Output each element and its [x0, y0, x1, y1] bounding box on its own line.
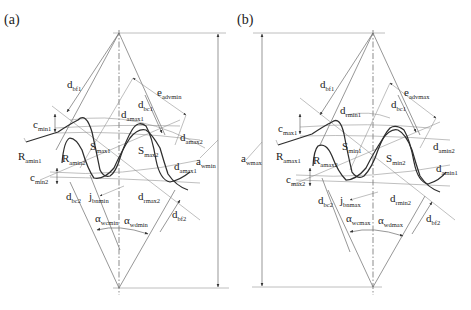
base-tangent-line	[350, 83, 390, 170]
label-subscript: min2	[35, 178, 48, 185]
label-subscript: wdmax	[384, 221, 404, 228]
label-subscript: min1	[38, 125, 51, 132]
dimension-label: Smax1	[90, 140, 111, 154]
label-subscript: bnmax	[343, 201, 361, 208]
dimension-label: dbf1	[67, 78, 81, 92]
right-lower-ray	[373, 196, 425, 287]
label-subscript: bc1	[397, 105, 406, 112]
dimension-label: drmin2	[390, 192, 411, 206]
label-subscript: max1	[283, 129, 297, 136]
label-subscript: wmax	[246, 159, 263, 166]
label-subscript: max2	[291, 180, 305, 187]
dimension-label: αwdmax	[378, 214, 404, 228]
panel-a-label: (a)	[4, 12, 20, 28]
dimension-label: Smin2	[386, 152, 406, 166]
label-subscript: amin2	[439, 147, 455, 154]
r-amax1-tick	[276, 140, 278, 145]
dimension-label: eadvmin	[157, 86, 182, 100]
panel-a: (a)	[4, 12, 229, 295]
label-subscript: amax2	[186, 138, 203, 145]
label-subscript: bf1	[326, 85, 335, 92]
dimension-label: damin2	[433, 140, 455, 154]
addendum-circle-1	[300, 125, 430, 128]
dimension-label: cmax1	[278, 122, 297, 136]
dimension-label: Ramax1	[276, 150, 301, 164]
r-amin1-tick	[24, 138, 26, 142]
dimension-label: Smin1	[342, 140, 362, 154]
label-subscript: max1	[96, 147, 110, 154]
dimension-label: αwcmin	[95, 212, 119, 226]
dimension-label: αwdmin	[124, 214, 149, 228]
panel-b-label: (b)	[237, 12, 254, 28]
dimension-label: dbf2	[172, 208, 186, 222]
dimension-label: dbc1	[138, 98, 153, 112]
dimension-label: cmax2	[286, 173, 305, 187]
right-lower-ray	[119, 190, 175, 288]
a-wmax-leader	[246, 142, 262, 160]
label-subscript: advmax	[409, 93, 430, 100]
label-subscript: wmin	[201, 162, 217, 169]
dimension-label: awmin	[196, 155, 216, 169]
panel-b-labels: dbf1 eadvmax dbc1 drmin1 cmax1 damin2 aw…	[241, 78, 458, 228]
dimension-label: Smax2	[138, 144, 159, 158]
label-subscript: rmin2	[396, 199, 412, 206]
gear-mesh-diagram: (a)	[0, 0, 471, 310]
dimension-label: dbf1	[320, 78, 334, 92]
dimension-label: drmin1	[340, 104, 361, 118]
panel-b: (b) dbf1 eadvmax db	[237, 12, 458, 295]
label-subscript: amax1	[180, 167, 197, 174]
dimension-label: drmax2	[138, 190, 160, 204]
dimension-label: damax1	[174, 160, 197, 174]
dimension-label: cmin2	[30, 171, 48, 185]
label-subscript: bc1	[144, 105, 153, 112]
label-subscript: amin2	[69, 159, 85, 166]
label-subscript: min2	[392, 159, 405, 166]
label-subscript: bc2	[72, 197, 81, 204]
label-subscript: bc2	[324, 201, 333, 208]
label-subscript: bf2	[432, 219, 441, 226]
label-subscript: min1	[348, 147, 361, 154]
j-bnmin-dimension	[100, 186, 124, 196]
panel-a-labels: dbf1 eadvmin dbc1 damax1 cmin1 damax2 Ra…	[18, 78, 216, 228]
j-bnmax-dimension	[350, 192, 378, 200]
label-subscript: wcmin	[101, 219, 119, 226]
label-subscript: bnmin	[92, 197, 109, 204]
dimension-label: cmin1	[33, 118, 51, 132]
e-advmax-dimension	[390, 83, 436, 118]
label-subscript: rmin1	[346, 111, 362, 118]
dimension-label: αwcmax	[346, 212, 371, 226]
label-subscript: advmin	[162, 93, 182, 100]
d-bf1-dimension	[67, 33, 119, 112]
label-subscript: max2	[144, 151, 158, 158]
dimension-label: Ramin1	[18, 150, 42, 164]
label-subscript: wcmax	[352, 219, 372, 226]
dimension-label: awmax	[241, 152, 263, 166]
dimension-label: Ramax2	[313, 154, 338, 168]
label-subscript: amax1	[283, 157, 300, 164]
label-subscript: rmax2	[144, 197, 161, 204]
label-subscript: amax2	[320, 161, 337, 168]
dimension-label: dbc2	[66, 190, 81, 204]
d-bf1-dimension	[320, 33, 373, 115]
dimension-label: eadvmax	[404, 86, 430, 100]
alpha-angle-arc	[97, 228, 148, 234]
dimension-label: Ramin2	[62, 152, 86, 166]
dimension-label: jbnmin	[88, 190, 109, 204]
alpha-angle-arc	[350, 230, 403, 236]
right-upper-ray	[373, 33, 420, 135]
label-subscript: amax1	[127, 115, 144, 122]
dimension-label: dbf2	[426, 212, 440, 226]
dimension-label: damax1	[121, 108, 144, 122]
dimension-label: jbnmax	[339, 194, 362, 208]
label-subscript: wdmin	[130, 221, 149, 228]
dimension-label: damax2	[180, 131, 203, 145]
label-subscript: amin1	[25, 157, 41, 164]
label-subscript: bf2	[178, 215, 187, 222]
dimension-label: damin1	[436, 162, 458, 176]
label-subscript: bf1	[73, 85, 82, 92]
label-subscript: amin1	[442, 169, 458, 176]
